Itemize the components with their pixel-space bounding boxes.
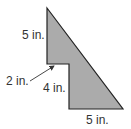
diagram-canvas: 5 in. 2 in. 4 in. 5 in.	[0, 0, 131, 129]
composite-figure-svg: 5 in. 2 in. 4 in. 5 in.	[0, 0, 131, 129]
label-inner-vertical: 4 in.	[43, 81, 66, 95]
label-bottom: 5 in.	[86, 113, 109, 127]
label-notch-width: 2 in.	[6, 74, 29, 88]
notch-pointer-arrow	[30, 66, 54, 81]
label-left-side: 5 in.	[22, 28, 45, 42]
